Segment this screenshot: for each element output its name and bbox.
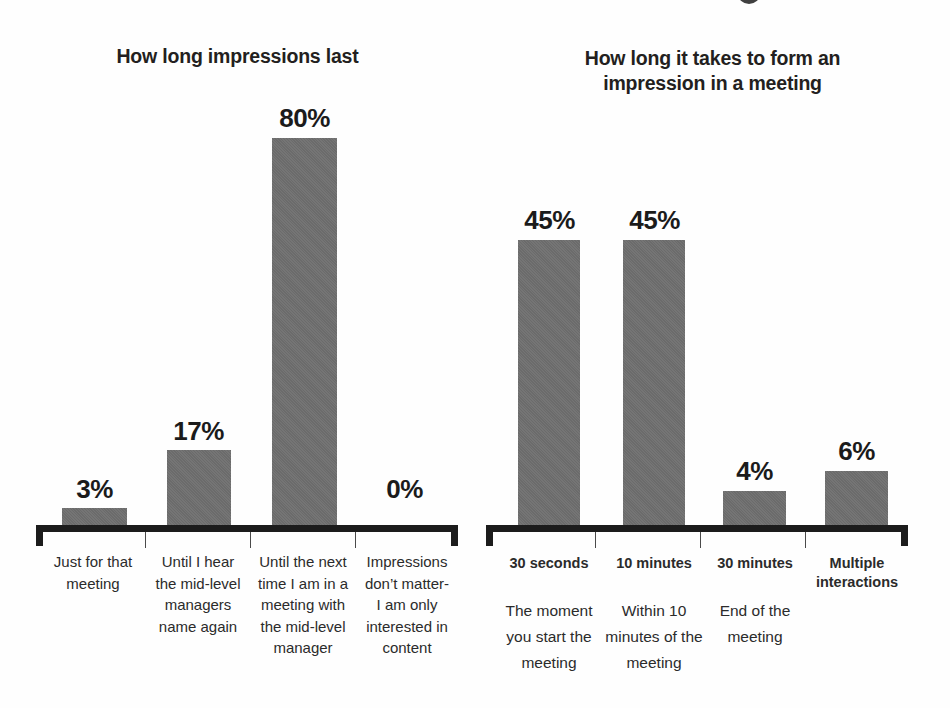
sub-line: End of the: [704, 598, 806, 624]
cat-line: interactions: [807, 573, 907, 592]
cat-line: the mid-level: [148, 573, 248, 595]
cat-line: name again: [148, 616, 248, 638]
bar-value-right-3: 4%: [707, 458, 802, 484]
bar-left-2: [167, 450, 231, 525]
cat-line: Until the next: [252, 551, 354, 573]
cat-line: interested in: [357, 616, 457, 638]
sub-line: The moment: [498, 598, 600, 624]
cat-line: don’t matter-: [357, 573, 457, 595]
cat-line: 10 minutes: [604, 554, 704, 573]
cat-line: Multiple: [807, 554, 907, 573]
right-axis-tick-2: [700, 532, 701, 548]
cat-line: managers: [148, 594, 248, 616]
bar-value-right-2: 45%: [607, 207, 702, 233]
cat-line: manager: [252, 637, 354, 659]
cat-line: content: [357, 637, 457, 659]
right-axis-cap-end: [901, 525, 908, 546]
cat-line: the mid-level: [252, 616, 354, 638]
left-axis-cap-start: [36, 525, 43, 546]
right-subcaption-2: Within 10 minutes of the meeting: [603, 598, 705, 676]
sub-line: meeting: [498, 650, 600, 676]
bar-value-right-1: 45%: [502, 207, 597, 233]
bar-value-left-1: 3%: [47, 476, 142, 502]
bar-right-2: [623, 240, 685, 525]
cat-line: meeting with: [252, 594, 354, 616]
cat-line: time I am in a: [252, 573, 354, 595]
sub-line: Within 10: [603, 598, 705, 624]
right-category-label-1: 30 seconds: [499, 554, 599, 573]
right-category-label-2: 10 minutes: [604, 554, 704, 573]
bar-right-1: [518, 240, 580, 525]
left-x-axis-line: [36, 525, 458, 532]
chart-panel-right: How long it takes to form an impression …: [475, 0, 950, 708]
bar-left-3: [272, 138, 337, 525]
bar-right-4: [825, 471, 888, 525]
sub-line: you start the: [498, 624, 600, 650]
cat-line: meeting: [43, 573, 143, 595]
left-axis-cap-end: [451, 525, 458, 546]
right-category-label-4: Multiple interactions: [807, 554, 907, 592]
cat-line: Until I hear: [148, 551, 248, 573]
left-category-label-1: Just for that meeting: [43, 551, 143, 594]
right-category-label-3: 30 minutes: [705, 554, 805, 573]
left-axis-tick-1: [145, 532, 146, 548]
right-plot-area: 45% 45% 4% 6% 30 seconds 10 minutes 30 m…: [475, 0, 950, 708]
cat-line: 30 minutes: [705, 554, 805, 573]
left-axis-tick-2: [250, 532, 251, 548]
left-category-label-3: Until the next time I am in a meeting wi…: [252, 551, 354, 659]
cat-line: Just for that: [43, 551, 143, 573]
right-x-axis-line: [486, 525, 908, 532]
cat-line: Impressions: [357, 551, 457, 573]
bar-value-left-2: 17%: [151, 418, 246, 444]
cat-line: I am only: [357, 594, 457, 616]
right-subcaption-1: The moment you start the meeting: [498, 598, 600, 676]
right-axis-tick-3: [805, 532, 806, 548]
bar-left-1: [62, 508, 127, 525]
bar-value-right-4: 6%: [809, 438, 904, 464]
sub-line: minutes of the: [603, 624, 705, 650]
bar-right-3: [723, 491, 786, 525]
sub-line: meeting: [603, 650, 705, 676]
cat-line: 30 seconds: [499, 554, 599, 573]
sub-line: meeting: [704, 624, 806, 650]
right-axis-tick-1: [595, 532, 596, 548]
left-category-label-2: Until I hear the mid-level managers name…: [148, 551, 248, 637]
left-plot-area: 3% 17% 80% 0% Just for that meeting Unti…: [0, 0, 475, 708]
left-axis-tick-3: [355, 532, 356, 548]
bar-value-left-4: 0%: [357, 476, 452, 502]
left-category-label-4: Impressions don’t matter- I am only inte…: [357, 551, 457, 659]
right-axis-cap-start: [486, 525, 493, 546]
bar-value-left-3: 80%: [257, 105, 352, 131]
chart-page: How long impressions last 3% 17% 80% 0% …: [0, 0, 950, 708]
chart-panel-left: How long impressions last 3% 17% 80% 0% …: [0, 0, 475, 708]
right-subcaption-3: End of the meeting: [704, 598, 806, 650]
